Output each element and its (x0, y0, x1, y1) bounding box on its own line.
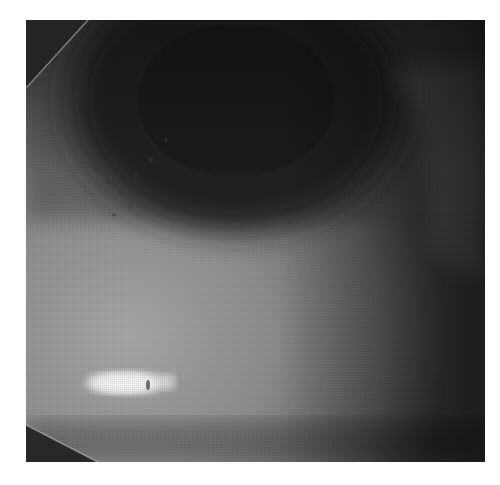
photograph (26, 20, 485, 462)
photo-render (26, 20, 485, 462)
page-canvas (0, 0, 500, 485)
